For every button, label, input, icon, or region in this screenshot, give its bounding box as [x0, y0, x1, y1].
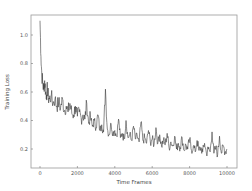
- y-axis-label: Training Loss: [4, 74, 11, 111]
- training-loss-chart: 0.20.40.60.81.0 0200040006000800010000 T…: [0, 0, 252, 191]
- x-tick-label: 10000: [219, 170, 235, 176]
- y-tick-label: 0.2: [20, 146, 28, 152]
- x-tick-label: 0: [38, 170, 41, 176]
- y-tick-label: 0.8: [20, 60, 28, 66]
- y-tick-label: 1.0: [20, 32, 28, 38]
- x-tick-label: 6000: [146, 170, 159, 176]
- x-tick-label: 2000: [71, 170, 84, 176]
- y-tick-label: 0.6: [20, 89, 28, 95]
- y-tick-label: 0.4: [20, 117, 28, 123]
- plot-area: [31, 15, 237, 168]
- x-tick-label: 8000: [183, 170, 196, 176]
- x-tick-label: 4000: [108, 170, 121, 176]
- x-axis-label: Time Frames: [115, 179, 151, 185]
